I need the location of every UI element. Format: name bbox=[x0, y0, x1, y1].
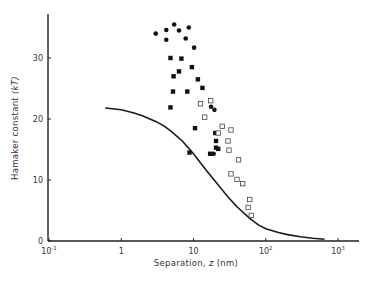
y-tick-label: 20 bbox=[33, 115, 43, 124]
filled-circle-point bbox=[192, 45, 197, 50]
open-square-point bbox=[220, 124, 224, 128]
y-tick-label: 30 bbox=[33, 54, 43, 63]
filled-circle-point bbox=[172, 22, 177, 27]
open-square-point bbox=[248, 197, 252, 201]
filled-square-point bbox=[208, 152, 212, 156]
open-square-point bbox=[208, 99, 212, 103]
x-tick-label: 103 bbox=[331, 245, 345, 256]
y-tick-label: 10 bbox=[33, 176, 43, 185]
y-tick-label: 0 bbox=[38, 237, 43, 246]
filled-square-point bbox=[216, 147, 220, 151]
filled-circle-point bbox=[183, 36, 188, 41]
x-tick-label: 10-1 bbox=[41, 245, 57, 256]
filled-circle-point bbox=[164, 37, 169, 42]
open-square-point bbox=[241, 181, 245, 185]
open-square-point bbox=[236, 158, 240, 162]
x-tick-label: 1 bbox=[119, 247, 124, 256]
open-square-point bbox=[198, 102, 202, 106]
filled-square-point bbox=[187, 150, 191, 154]
filled-square-point bbox=[190, 65, 194, 69]
x-tick-label: 102 bbox=[259, 245, 273, 256]
open-square-point bbox=[227, 148, 231, 152]
open-square-point bbox=[203, 115, 207, 119]
filled-circle-point bbox=[164, 28, 169, 33]
data-points bbox=[153, 22, 253, 217]
filled-square-point bbox=[171, 89, 175, 93]
y-axis-title: Hamaker constant (kT) bbox=[10, 76, 20, 180]
open-square-point bbox=[216, 131, 220, 135]
hamaker-chart: 10-1110102103 0102030 Separation, z (nm)… bbox=[0, 0, 374, 282]
open-square-point bbox=[229, 128, 233, 132]
filled-square-point bbox=[168, 56, 172, 60]
x-tick-label: 10 bbox=[188, 247, 198, 256]
filled-square-point bbox=[200, 86, 204, 90]
axes bbox=[48, 14, 359, 241]
filled-square-point bbox=[179, 56, 183, 60]
open-square-point bbox=[235, 177, 239, 181]
filled-circle-point bbox=[186, 25, 191, 30]
filled-square-point bbox=[193, 126, 197, 130]
x-axis-title: Separation, z (nm) bbox=[154, 258, 239, 268]
filled-square-point bbox=[168, 105, 172, 109]
theory-curve bbox=[105, 108, 324, 239]
open-square-point bbox=[226, 139, 230, 143]
filled-square-point bbox=[185, 89, 189, 93]
open-square-point bbox=[246, 205, 250, 209]
filled-circle-point bbox=[212, 108, 217, 113]
filled-circle-point bbox=[153, 31, 158, 36]
filled-circle-point bbox=[177, 28, 182, 33]
filled-square-point bbox=[177, 69, 181, 73]
filled-square-point bbox=[171, 74, 175, 78]
filled-square-point bbox=[196, 77, 200, 81]
open-square-point bbox=[229, 172, 233, 176]
open-square-point bbox=[249, 213, 253, 217]
theory-curve-line bbox=[105, 108, 324, 239]
filled-square-point bbox=[214, 139, 218, 143]
